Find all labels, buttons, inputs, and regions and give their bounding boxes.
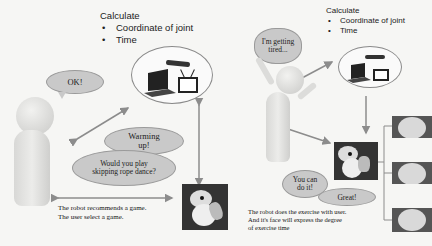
tv-icon bbox=[373, 69, 389, 81]
user-figure-head bbox=[276, 66, 304, 94]
left-caption: The robot recommends a game. The user se… bbox=[58, 204, 188, 221]
kinect-sensor-icon bbox=[365, 55, 385, 59]
caption-line: of exercise time bbox=[248, 224, 388, 232]
robot-speech-text: Warming up! bbox=[123, 132, 165, 150]
right-calc-title: Calculate bbox=[326, 6, 405, 16]
robot-photo bbox=[334, 142, 378, 180]
left-calc-item: Coordinate of joint bbox=[100, 22, 193, 34]
robot-photo bbox=[182, 184, 228, 230]
user-figure-body bbox=[14, 130, 50, 206]
right-calc-item: Coordinate of joint bbox=[326, 16, 405, 26]
user-figure-body bbox=[266, 92, 290, 162]
robot-eye bbox=[348, 152, 352, 156]
left-calculate-list: Calculate Coordinate of joint Time bbox=[100, 10, 193, 46]
left-calc-title: Calculate bbox=[100, 10, 193, 22]
robot-eye bbox=[200, 196, 204, 200]
caption-line: And it's face will express the degree bbox=[248, 216, 388, 224]
right-computer-ellipse bbox=[338, 46, 402, 88]
robot-face-expression-1 bbox=[392, 116, 432, 138]
robot-speech-text: Would you play skipping rope dance? bbox=[87, 160, 161, 177]
left-computer-ellipse bbox=[131, 46, 213, 104]
caption-line: The robot does the exercise with user. bbox=[248, 208, 388, 216]
robot-face bbox=[398, 117, 426, 138]
laptop-icon bbox=[339, 47, 403, 89]
laptop-icon bbox=[132, 47, 214, 105]
user-speech-text: I'm getting tired... bbox=[261, 38, 295, 55]
user-speech-bubble-ok: OK! bbox=[46, 70, 104, 94]
caption-line: The robot recommends a game. bbox=[58, 204, 188, 213]
robot-speech-text: You can do it! bbox=[290, 176, 320, 193]
robot-face bbox=[398, 163, 426, 184]
right-calc-item: Time bbox=[326, 26, 405, 36]
robot-face bbox=[398, 209, 426, 231]
right-calculate-list: Calculate Coordinate of joint Time bbox=[326, 6, 405, 36]
bubble-tail bbox=[58, 92, 66, 99]
left-calc-item: Time bbox=[100, 34, 193, 46]
user-speech-text: OK! bbox=[67, 77, 82, 87]
robot-speech-bubble-game-invite: Would you play skipping rope dance? bbox=[72, 150, 176, 186]
robot-wing bbox=[358, 156, 370, 172]
tv-icon bbox=[178, 77, 198, 93]
caption-line: The user select a game. bbox=[58, 213, 188, 222]
robot-speech-text: Great! bbox=[337, 193, 356, 202]
robot-face-expression-2 bbox=[392, 162, 432, 184]
right-caption: The robot does the exercise with user. A… bbox=[248, 208, 388, 232]
robot-speech-bubble-great: Great! bbox=[318, 188, 376, 206]
robot-face-expression-3 bbox=[392, 208, 432, 232]
